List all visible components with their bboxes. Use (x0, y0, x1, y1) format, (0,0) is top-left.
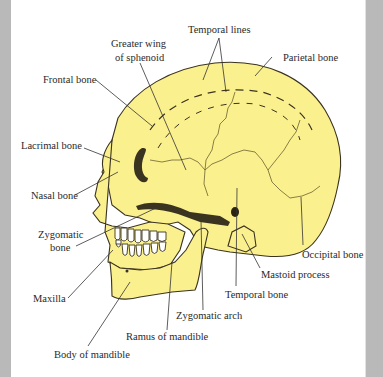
label-lacrimal-bone: Lacrimal bone (21, 140, 82, 151)
label-temporal-bone: Temporal bone (225, 289, 288, 300)
label-greater-wing-line1: Greater wing (111, 38, 167, 49)
label-mastoid-process: Mastoid process (261, 269, 330, 280)
label-nasal-bone: Nasal bone (31, 190, 78, 201)
label-ramus-of-mandible: Ramus of mandible (126, 331, 209, 342)
label-zygomatic-bone-line2: bone (50, 242, 71, 253)
label-occipital-bone: Occipital bone (302, 249, 364, 260)
leader-body-mandible (88, 282, 130, 346)
external-acoustic-meatus (231, 207, 239, 217)
skull-diagram: Temporal lines Greater wing of sphenoid … (0, 0, 383, 377)
mental-foramen (126, 270, 129, 273)
leader-maxilla (68, 250, 113, 298)
label-body-of-mandible: Body of mandible (54, 349, 130, 360)
label-frontal-bone: Frontal bone (43, 74, 97, 85)
label-zygomatic-bone-line1: Zygomatic (38, 229, 84, 240)
label-zygomatic-arch: Zygomatic arch (176, 310, 243, 321)
label-temporal-lines: Temporal lines (188, 24, 251, 35)
label-parietal-bone: Parietal bone (283, 52, 338, 63)
label-maxilla: Maxilla (33, 293, 66, 304)
label-greater-wing-line2: of sphenoid (115, 52, 165, 63)
